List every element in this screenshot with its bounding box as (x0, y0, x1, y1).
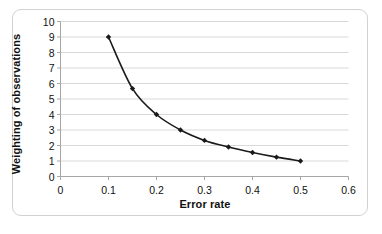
data-point-marker (298, 158, 303, 163)
data-point-marker (274, 154, 279, 159)
data-point-marker (106, 34, 111, 39)
gridlines (61, 22, 349, 177)
tick-marks (57, 22, 349, 181)
data-point-marker (250, 150, 255, 155)
data-point-marker (202, 138, 207, 143)
chart-container: Weighting of observations Error rate 012… (0, 0, 382, 234)
plot-area (0, 0, 382, 234)
